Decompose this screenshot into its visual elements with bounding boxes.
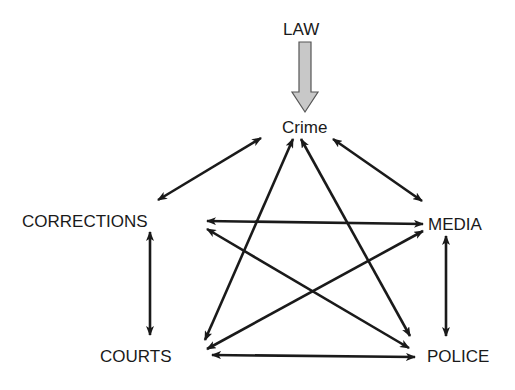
node-media: MEDIA xyxy=(428,215,482,235)
edge-corrections-media xyxy=(207,221,423,224)
edge-corrections-police xyxy=(207,229,409,348)
edge-crime-corrections xyxy=(158,138,261,200)
node-crime: Crime xyxy=(282,118,327,138)
node-courts: COURTS xyxy=(100,347,171,367)
edge-arrows xyxy=(150,138,446,357)
edge-crime-police xyxy=(301,139,410,336)
criminal-justice-diagram: LAW Crime CORRECTIONS MEDIA COURTS POLIC… xyxy=(0,0,515,390)
law-to-crime-arrow-icon xyxy=(292,42,318,112)
edges-layer xyxy=(0,0,515,390)
edge-courts-police xyxy=(212,355,415,357)
node-corrections: CORRECTIONS xyxy=(22,212,148,232)
node-law: LAW xyxy=(283,20,319,40)
node-police: POLICE xyxy=(427,347,489,367)
edge-crime-media xyxy=(333,139,422,201)
